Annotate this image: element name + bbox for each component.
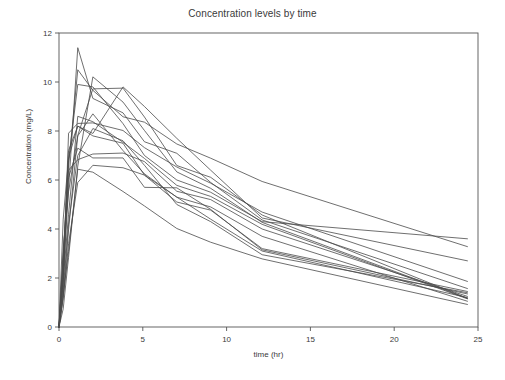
y-tick-label: 8 (48, 127, 53, 136)
x-tick-label: 5 (141, 335, 146, 344)
y-tick-label: 2 (48, 274, 53, 283)
series-lines (59, 48, 467, 327)
x-tick-label: 20 (390, 335, 399, 344)
series-line (59, 48, 467, 327)
y-tick-label: 12 (43, 29, 52, 38)
y-tick-label: 6 (48, 176, 53, 185)
series-line (59, 70, 467, 327)
x-tick-label: 25 (474, 335, 483, 344)
y-axis-ticks: 024681012 (43, 29, 59, 332)
chart-figure: Concentration levels by time 024681012 0… (0, 0, 505, 380)
series-line (59, 153, 467, 327)
x-tick-label: 10 (222, 335, 231, 344)
x-tick-label: 0 (57, 335, 62, 344)
y-axis-label: Concentration (mg/L) (24, 77, 33, 217)
series-line (59, 126, 467, 327)
x-axis-ticks: 0510152025 (57, 327, 483, 344)
x-axis-label: time (hr) (59, 350, 478, 359)
y-tick-label: 10 (43, 78, 52, 87)
series-line (59, 148, 467, 327)
line-chart-plot: 024681012 0510152025 (0, 0, 505, 380)
y-tick-label: 0 (48, 323, 53, 332)
x-tick-label: 15 (306, 335, 315, 344)
y-tick-label: 4 (48, 225, 53, 234)
